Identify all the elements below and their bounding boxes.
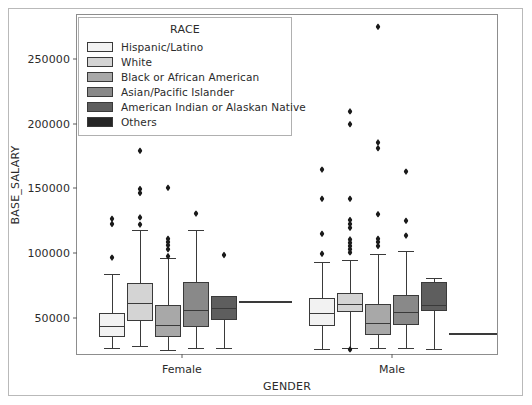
whisker-cap-lower (188, 348, 204, 349)
x-tick-mark (182, 354, 183, 358)
median-line (421, 305, 448, 306)
outlier-marker (348, 121, 353, 128)
outlier-marker (376, 139, 381, 146)
legend-swatch (87, 87, 113, 97)
legend-label: American Indian or Alaskan Native (121, 101, 306, 113)
median-line (127, 303, 154, 304)
legend-swatch (87, 117, 113, 127)
median-line (309, 313, 336, 314)
outlier-marker (320, 250, 325, 257)
legend-item: White (87, 54, 283, 69)
outlier-marker (194, 210, 199, 217)
y-tick-label: 100000 (27, 247, 77, 260)
legend-title: RACE (87, 23, 283, 36)
box (393, 295, 420, 325)
box (365, 304, 392, 335)
whisker-cap-lower (216, 348, 232, 349)
whisker-lower (406, 325, 407, 348)
y-tick-label: 150000 (27, 182, 77, 195)
whisker-cap-upper (426, 278, 442, 279)
outlier-marker (404, 168, 409, 175)
legend-item: Black or African American (87, 69, 283, 84)
legend-item: Asian/Pacific Islander (87, 84, 283, 99)
y-tick-mark (73, 123, 77, 124)
outlier-marker (376, 23, 381, 30)
legend-item: Hispanic/Latino (87, 39, 283, 54)
outlier-marker (138, 186, 143, 193)
y-tick-label: 50000 (35, 311, 78, 324)
whisker-cap-upper (370, 254, 386, 255)
whisker-cap-lower (426, 349, 442, 350)
outlier-marker (348, 346, 353, 353)
whisker-cap-upper (398, 251, 414, 252)
outlier-marker (348, 108, 353, 115)
legend-swatch (87, 42, 113, 52)
median-line (337, 304, 364, 305)
whisker-lower (168, 337, 169, 351)
legend-entries: Hispanic/LatinoWhiteBlack or African Ame… (87, 39, 283, 129)
outlier-marker (110, 254, 115, 261)
legend-item: Others (87, 114, 283, 129)
legend-swatch (87, 57, 113, 67)
box (337, 293, 364, 312)
outlier-marker (138, 214, 143, 221)
whisker-cap-lower (370, 348, 386, 349)
outlier-marker (348, 195, 353, 202)
legend: RACE Hispanic/LatinoWhiteBlack or Africa… (78, 17, 292, 136)
outlier-marker (376, 211, 381, 218)
median-line (211, 308, 238, 309)
outlier-marker (348, 217, 353, 224)
whisker-cap-upper (342, 260, 358, 261)
whisker-cap-upper (188, 230, 204, 231)
whisker-lower (350, 312, 351, 348)
whisker-cap-lower (160, 350, 176, 351)
whisker-lower (224, 320, 225, 348)
outlier-marker (320, 230, 325, 237)
box-flat-line (239, 301, 292, 303)
box (99, 313, 126, 336)
whisker-upper (112, 274, 113, 313)
y-tick-label: 250000 (27, 52, 77, 65)
median-line (155, 325, 182, 326)
y-tick-mark (73, 253, 77, 254)
legend-label: Hispanic/Latino (121, 41, 203, 53)
whisker-upper (322, 262, 323, 298)
whisker-cap-lower (314, 349, 330, 350)
median-line (393, 312, 420, 313)
whisker-lower (112, 337, 113, 348)
whisker-lower (140, 321, 141, 346)
whisker-lower (434, 311, 435, 349)
legend-label: White (121, 56, 152, 68)
whisker-cap-lower (132, 346, 148, 347)
legend-label: Black or African American (121, 71, 259, 83)
outlier-marker (404, 232, 409, 239)
y-tick-mark (73, 317, 77, 318)
whisker-cap-lower (398, 348, 414, 349)
whisker-cap-lower (104, 348, 120, 349)
median-line (365, 323, 392, 324)
whisker-upper (350, 260, 351, 293)
outlier-marker (138, 147, 143, 154)
outlier-marker (222, 252, 227, 259)
box (183, 282, 210, 327)
whisker-lower (378, 335, 379, 348)
outlier-marker (404, 217, 409, 224)
y-axis-label: BASE_SALARY (9, 146, 22, 225)
x-tick-mark (392, 354, 393, 358)
whisker-upper (168, 258, 169, 305)
median-line (183, 310, 210, 311)
box-flat-line (449, 333, 497, 335)
y-tick-mark (73, 58, 77, 59)
figure-canvas: BASE_SALARY 5000010000015000020000025000… (0, 0, 532, 405)
outlier-marker (320, 195, 325, 202)
x-axis-label: GENDER (76, 380, 498, 393)
outlier-marker (320, 166, 325, 173)
y-tick-mark (73, 188, 77, 189)
whisker-cap-upper (132, 230, 148, 231)
whisker-cap-upper (314, 262, 330, 263)
whisker-upper (196, 230, 197, 282)
outlier-marker (166, 184, 171, 191)
median-line (99, 326, 126, 327)
legend-label: Asian/Pacific Islander (121, 86, 234, 98)
whisker-cap-upper (104, 274, 120, 275)
